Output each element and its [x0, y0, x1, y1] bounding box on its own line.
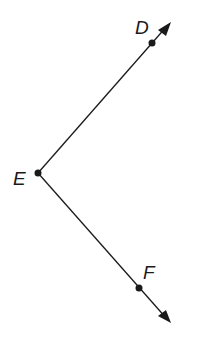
label-f: F	[143, 262, 156, 283]
point-f	[136, 285, 143, 292]
label-d: D	[135, 17, 149, 38]
angle-diagram: D E F	[0, 0, 201, 351]
point-e	[35, 170, 42, 177]
label-e: E	[13, 168, 26, 189]
ray-ef	[38, 173, 171, 323]
point-d	[149, 40, 156, 47]
